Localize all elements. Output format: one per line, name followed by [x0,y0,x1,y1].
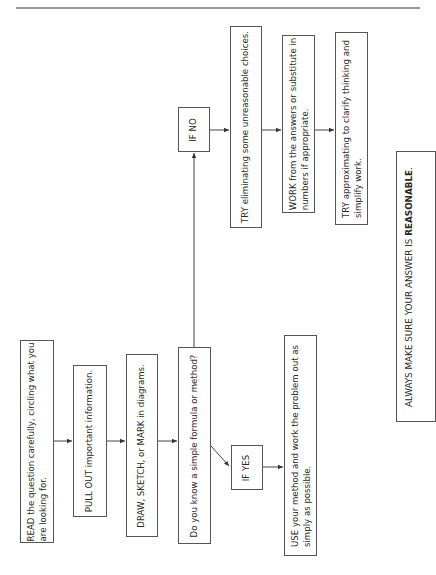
step-pull-out: PULL OUT important information. [73,365,107,517]
branch-if-yes: IF YES [231,445,263,490]
arrow-know-ifyes [211,446,229,466]
node-text-line: numbers if appropriate. [299,38,311,211]
step-try-eliminating: TRY eliminating some unreasonable choice… [230,26,262,228]
node-text-line: TRY approximating to clarify thinking an… [340,40,352,218]
node-text-line: IF YES [241,454,253,480]
node-text-line: simplify work. [352,40,364,218]
node-text-line: are looking for. [37,342,49,541]
reminder-prefix: ALWAYS MAKE SURE YOUR ANSWER IS [404,235,414,406]
step-work-from-answers: WORK from the answers or substitute in n… [282,35,315,213]
decision-know-formula: Do you know a simple formula or method? [178,347,211,544]
step-read-question: READ the question carefully, circling wh… [20,340,54,543]
node-text-line: TRY eliminating some unreasonable choice… [240,31,252,223]
reminder-reasonable-answer: ALWAYS MAKE SURE YOUR ANSWER IS REASONAB… [396,151,436,422]
node-text-line: PULL OUT important information. [84,370,96,512]
reminder-emphasis: REASONABLE [404,169,414,235]
node-text-line: IF NO [188,118,200,141]
step-draw-sketch: DRAW, SKETCH, or MARK in diagrams. [126,354,158,537]
reminder-suffix: . [404,167,414,170]
node-text-line: WORK from the answers or substitute in [287,38,299,211]
node-text-line: simply as possible. [301,345,313,547]
branch-if-no: IF NO [178,107,210,152]
node-text-line: Do you know a simple formula or method? [189,354,201,537]
step-use-method: USE your method and work the problem out… [284,335,317,556]
node-text-line: DRAW, SKETCH, or MARK in diagrams. [136,364,148,527]
step-try-approximating: TRY approximating to clarify thinking an… [335,32,368,225]
node-text-line: READ the question carefully, circling wh… [26,342,38,541]
node-text-line: USE your method and work the problem out… [289,345,301,547]
